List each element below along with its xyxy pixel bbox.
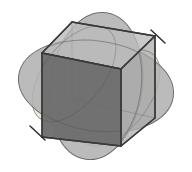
geometric-figure [0, 0, 192, 172]
figure-container [0, 0, 192, 172]
